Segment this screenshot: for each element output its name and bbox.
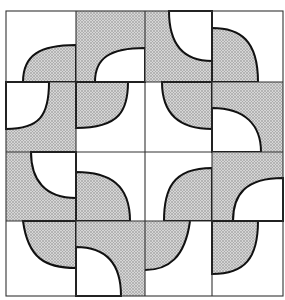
tile-r2-c0 [6,152,76,221]
tile-r2-c1 [76,172,130,221]
tile-r2-c2 [164,168,212,221]
tile-pattern-diagram [0,0,285,300]
tile-r3-c0 [23,221,76,268]
tile-r3-c1 [76,221,145,296]
tile-r0-c3 [212,28,258,82]
tile-r0-c2 [145,11,212,82]
tile-r1-c2 [162,82,212,129]
tile-r1-c0 [6,82,76,152]
tile-r1-c1 [76,82,128,128]
tile-r0-c0 [23,45,76,82]
tile-r3-c2 [145,221,212,296]
tile-r1-c3 [212,82,283,152]
tile-r3-c3 [212,221,258,274]
tile-r2-c3 [212,152,283,221]
tile-r0-c1 [76,11,145,82]
